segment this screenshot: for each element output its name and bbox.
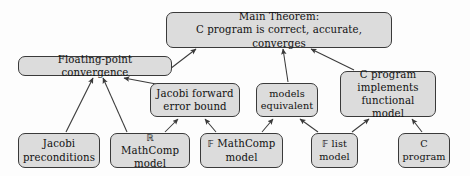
node-jacobi-forward-error-bound[interactable]: Jacobi forward error bound [150,83,240,117]
node-main-theorem[interactable]: Main Theorem: C program is correct, accu… [166,12,392,48]
edge-fmathcomp-to-models [262,119,273,132]
diagram-canvas: Main Theorem: C program is correct, accu… [0,0,470,176]
edge-fmathcomp-to-jfeb [205,119,216,132]
node-label: Floating-point convergence [24,53,166,79]
node-label: Jacobi forward error bound [156,87,233,113]
node-c-program-implements-functional-model[interactable]: C program implements functional model [340,71,436,117]
edge-models-to-main [283,49,288,82]
node-jacobi-preconditions[interactable]: Jacobi preconditions [18,133,100,168]
node-r-mathcomp-model[interactable]: ℝ MathComp model [110,133,190,168]
edge-flist-to-cimpl [352,119,369,132]
node-models-equivalent[interactable]: models equivalent [256,83,318,117]
node-floating-point-convergence[interactable]: Floating-point convergence [18,56,172,76]
node-f-mathcomp-model[interactable]: 𝔽 MathComp model [200,133,283,168]
node-label: Main Theorem: C program is correct, accu… [172,10,386,49]
edge-flist-to-models [300,119,318,132]
edge-jacobipre-to-fpc [66,78,93,132]
node-label: C program [402,138,445,163]
edge-cimpl-to-main [311,49,354,70]
blackboard-r-glyph: ℝ [146,132,154,143]
node-label: models equivalent [261,88,313,113]
edge-cprogram-to-cimpl [412,119,422,132]
node-c-program[interactable]: C program [398,133,450,168]
node-label: 𝔽 list model [319,138,350,163]
node-f-list-model[interactable]: 𝔽 list model [311,133,358,168]
edge-rmathcomp-to-fpc [103,78,127,132]
blackboard-f-glyph: 𝔽 [208,138,214,149]
node-label: ℝ MathComp model [116,131,184,170]
node-label: Jacobi preconditions [23,137,95,163]
blackboard-f-glyph: 𝔽 [322,138,328,149]
node-label: 𝔽 MathComp model [208,137,276,163]
node-label: C program implements functional model [346,68,430,120]
